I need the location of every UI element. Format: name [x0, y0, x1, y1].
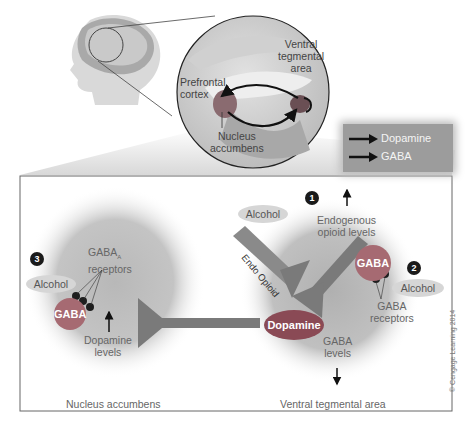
gaba-levels-line2: levels: [323, 347, 352, 359]
receptors-text: receptors: [88, 263, 132, 275]
vta-line3: area: [278, 62, 324, 74]
endogenous-line2: opioid levels: [317, 226, 376, 238]
prefrontal-line1: Prefrontal: [180, 76, 226, 88]
gaba-a-receptors-label: GABAA receptors: [88, 246, 132, 275]
vta-line2: tegmental: [278, 50, 324, 62]
legend-label: GABA: [381, 150, 412, 162]
endogenous-opioid-label: Endogenous opioid levels: [317, 214, 376, 238]
region-title-vta: Ventral tegmental area: [280, 398, 386, 410]
gaba-levels-label: GABA levels: [323, 335, 352, 359]
dopamine-levels-line1: Dopamine: [84, 334, 132, 346]
inset-label-vta: Ventral tegmental area: [278, 38, 324, 74]
inset-label-prefrontal: Prefrontal cortex: [180, 76, 226, 100]
gaba-cell-left: GABA: [54, 298, 86, 330]
copyright-text: © Cengage Learning 2014: [449, 310, 456, 392]
endogenous-line1: Endogenous: [317, 214, 376, 226]
gaba-levels-line1: GABA: [323, 335, 352, 347]
receptors-subscript: A: [117, 254, 121, 260]
arrow-right-icon: [349, 150, 379, 164]
alcohol-bubble-left: Alcohol: [26, 275, 76, 293]
step-1-badge: 1: [305, 191, 319, 205]
diagram-graphics: [0, 0, 470, 433]
step-3-badge: 3: [30, 252, 44, 266]
dopamine-cell: Dopamine: [264, 310, 324, 340]
nucleus-line2: accumbens: [210, 142, 264, 154]
dopamine-levels-label: Dopamine levels: [84, 334, 132, 358]
region-title-nucleus-accumbens: Nucleus accumbens: [66, 398, 161, 410]
alcohol-bubble-2: Alcohol: [392, 279, 444, 297]
inset-label-nucleus: Nucleus accumbens: [210, 130, 264, 154]
alcohol-bubble-1: Alcohol: [238, 205, 288, 223]
dopamine-levels-line2: levels: [84, 346, 132, 358]
legend: Dopamine GABA: [343, 124, 453, 172]
gaba-receptors-line2: receptors: [370, 312, 414, 324]
receptors-gaba-text: GABA: [88, 246, 117, 258]
gaba-cell-right: GABA: [355, 245, 391, 281]
arrow-right-icon: [349, 132, 379, 146]
gaba-receptors-label: GABA receptors: [370, 300, 414, 324]
head-silhouette: [70, 15, 160, 105]
prefrontal-line2: cortex: [180, 88, 226, 100]
vta-line1: Ventral: [278, 38, 324, 50]
nucleus-line1: Nucleus: [210, 130, 264, 142]
legend-label: Dopamine: [381, 132, 431, 144]
step-2-badge: 2: [407, 261, 421, 275]
gaba-receptors-line1: GABA: [370, 300, 414, 312]
